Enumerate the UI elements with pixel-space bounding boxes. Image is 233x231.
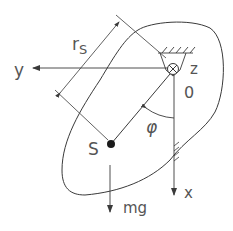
x-axis-label: x — [184, 184, 193, 202]
extension-line-top — [116, 15, 166, 58]
pivot-z-into-page-icon — [168, 64, 179, 75]
pendulum-rod — [111, 74, 170, 144]
center-of-mass-label: S — [88, 139, 99, 159]
radius-label: rS — [72, 34, 87, 57]
z-axis-label: z — [190, 60, 198, 78]
extension-line-bottom — [55, 90, 108, 140]
y-axis-label: y — [14, 60, 24, 80]
diagram-svg: rS y z 0 φ S x mg — [0, 0, 233, 231]
physical-pendulum-diagram: rS y z 0 φ S x mg — [0, 0, 233, 231]
x-axis-hatch — [174, 142, 179, 161]
angle-label: φ — [146, 117, 158, 137]
center-of-mass-dot — [107, 140, 115, 148]
origin-label: 0 — [184, 83, 194, 102]
radius-dimension-line — [60, 22, 119, 93]
weight-label: mg — [123, 199, 147, 217]
